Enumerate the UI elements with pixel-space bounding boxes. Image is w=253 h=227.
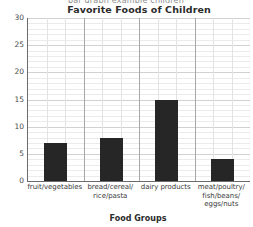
- gridline-minor: [28, 61, 250, 62]
- category-separator: [139, 18, 140, 181]
- y-tick-label: 30: [8, 14, 24, 22]
- bar: [100, 138, 123, 181]
- x-tick-label: meat/poultry/fish/beans/eggs/nuts: [190, 183, 253, 209]
- gridline-minor: [28, 40, 250, 41]
- gridline-minor: [28, 105, 250, 106]
- bar: [155, 100, 178, 182]
- gridline-minor: [28, 23, 250, 24]
- gridline-major: [28, 45, 250, 46]
- x-axis-label: Food Groups: [27, 214, 249, 223]
- category-separator: [195, 18, 196, 181]
- gridline-minor: [28, 116, 250, 117]
- gridline-major: [28, 127, 250, 128]
- gridline-minor: [28, 89, 250, 90]
- plot-area: [27, 18, 250, 182]
- gridline-minor: [28, 110, 250, 111]
- gridline-minor: [28, 121, 250, 122]
- gridline-minor: [28, 78, 250, 79]
- gridline-minor: [28, 56, 250, 57]
- gridline-vertical: [213, 18, 214, 181]
- gridline-major: [28, 72, 250, 73]
- gridline-vertical: [232, 18, 233, 181]
- category-separator: [84, 18, 85, 181]
- x-tick-label: bread/cereal/rice/pasta: [79, 183, 143, 200]
- x-tick-label: fruit/vegetables: [23, 183, 87, 192]
- y-tick-label: 20: [8, 69, 24, 77]
- gridline-major: [28, 18, 250, 19]
- bar: [44, 143, 67, 181]
- y-tick-label: 15: [8, 96, 24, 104]
- y-tick-label: 0: [8, 177, 24, 185]
- y-tick-label: 25: [8, 41, 24, 49]
- gridline-minor: [28, 67, 250, 68]
- bar: [211, 159, 234, 181]
- y-axis-tick-labels: 051015202530: [4, 0, 24, 227]
- gridline-major: [28, 100, 250, 101]
- chart-title: Favorite Foods of Children: [28, 4, 250, 15]
- gridline-minor: [28, 34, 250, 35]
- gridline-minor: [28, 29, 250, 30]
- cutoff-header-text: bar graph example children: [0, 0, 252, 3]
- bar-chart: bar graph example children Favorite Food…: [0, 0, 252, 227]
- gridline-minor: [28, 94, 250, 95]
- x-tick-label: dairy products: [134, 183, 198, 192]
- x-axis-tick-labels: fruit/vegetablesbread/cereal/rice/pastad…: [27, 183, 249, 217]
- gridline-minor: [28, 132, 250, 133]
- y-tick-label: 10: [8, 123, 24, 131]
- y-tick-label: 5: [8, 150, 24, 158]
- gridline-minor: [28, 51, 250, 52]
- gridline-minor: [28, 83, 250, 84]
- gridline-minor: [28, 138, 250, 139]
